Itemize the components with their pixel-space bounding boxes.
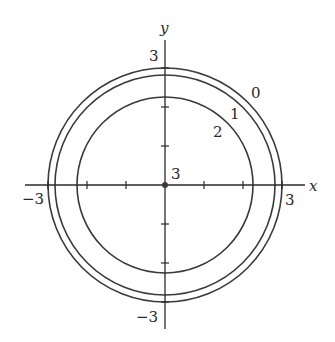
- origin-value-label: 3: [171, 165, 181, 183]
- diagram-canvas: y x 3 −3 −3 3 3 0 1 2: [0, 0, 335, 342]
- origin-point: [162, 182, 168, 188]
- y-max-label: 3: [149, 47, 159, 65]
- x-axis-label: x: [309, 177, 318, 195]
- x-min-label: −3: [22, 190, 44, 208]
- level-label-1: 1: [230, 105, 240, 123]
- y-axis-label: y: [159, 19, 169, 37]
- level-label-2: 2: [213, 123, 223, 141]
- y-min-label: −3: [136, 308, 158, 326]
- x-max-label: 3: [285, 191, 295, 209]
- level-curve-diagram: y x 3 −3 −3 3 3 0 1 2: [0, 0, 335, 342]
- level-label-0: 0: [251, 84, 261, 102]
